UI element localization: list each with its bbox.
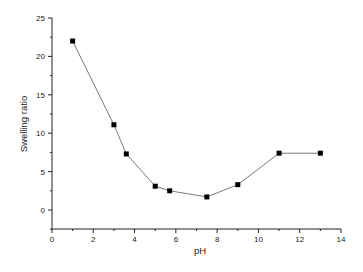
x-tick-label: 0 bbox=[50, 235, 55, 244]
x-axis-title: pH bbox=[194, 245, 206, 256]
data-point-marker bbox=[277, 151, 282, 156]
y-tick-label: 5 bbox=[41, 168, 46, 177]
axes bbox=[52, 18, 341, 229]
data-point-marker bbox=[204, 194, 209, 199]
x-tick-label: 14 bbox=[337, 235, 346, 244]
data-point-marker bbox=[124, 151, 129, 156]
line-chart: 0510152025 02468101214 pH Swelling ratio bbox=[0, 0, 363, 272]
data-point-marker bbox=[153, 184, 158, 189]
data-series bbox=[70, 39, 323, 200]
y-tick-label: 15 bbox=[36, 91, 45, 100]
x-tick-label: 4 bbox=[132, 235, 137, 244]
y-tick-label: 0 bbox=[41, 206, 46, 215]
y-ticks: 0510152025 bbox=[36, 14, 52, 229]
x-tick-label: 8 bbox=[215, 235, 220, 244]
data-point-marker bbox=[70, 39, 75, 44]
x-ticks: 02468101214 bbox=[50, 229, 346, 244]
y-tick-label: 20 bbox=[36, 52, 45, 61]
y-axis-title: Swelling ratio bbox=[18, 96, 29, 153]
data-point-marker bbox=[111, 122, 116, 127]
x-tick-label: 10 bbox=[254, 235, 263, 244]
y-tick-label: 25 bbox=[36, 14, 45, 23]
series-line bbox=[73, 41, 321, 197]
x-tick-label: 2 bbox=[91, 235, 96, 244]
x-tick-label: 6 bbox=[174, 235, 179, 244]
data-point-marker bbox=[167, 188, 172, 193]
y-tick-label: 10 bbox=[36, 129, 45, 138]
data-point-marker bbox=[235, 182, 240, 187]
x-tick-label: 12 bbox=[295, 235, 304, 244]
data-point-marker bbox=[318, 151, 323, 156]
